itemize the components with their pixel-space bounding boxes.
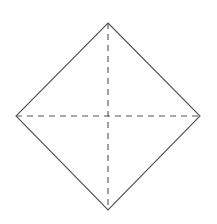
diagram-canvas: [0, 0, 217, 224]
